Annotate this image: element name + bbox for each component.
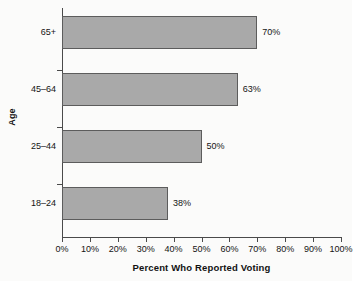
x-axis-tick xyxy=(229,237,230,242)
x-axis-title: Percent Who Reported Voting xyxy=(62,262,341,273)
y-tick-label-25-44: 25–44 xyxy=(4,142,56,151)
x-axis-tick xyxy=(146,237,147,242)
bar-value-18-24: 38% xyxy=(173,199,191,208)
bar-65plus[interactable] xyxy=(62,16,257,49)
x-axis-tick xyxy=(285,237,286,242)
x-axis-tick xyxy=(257,237,258,242)
bar-value-25-44: 50% xyxy=(207,142,225,151)
x-axis-tick xyxy=(118,237,119,242)
bar-25-44[interactable] xyxy=(62,130,202,163)
y-axis-tick xyxy=(57,70,62,71)
y-axis-tick xyxy=(57,184,62,185)
bar-45-64[interactable] xyxy=(62,73,238,106)
y-tick-label-18-24: 18–24 xyxy=(4,199,56,208)
x-axis-tick xyxy=(90,237,91,242)
y-axis-title: Age xyxy=(7,87,17,147)
x-axis-tick xyxy=(62,237,63,242)
bar-18-24[interactable] xyxy=(62,187,168,220)
y-tick-label-45-64: 45–64 xyxy=(4,85,56,94)
y-axis-tick xyxy=(57,127,62,128)
x-axis-tick xyxy=(313,237,314,242)
y-tick-label-65plus: 65+ xyxy=(4,28,56,37)
x-axis-tick xyxy=(202,237,203,242)
x-axis-tick xyxy=(341,237,342,242)
x-axis-tick xyxy=(174,237,175,242)
bar-value-65plus: 70% xyxy=(262,28,280,37)
x-axis-tick-label: 100% xyxy=(324,245,357,254)
bar-value-45-64: 63% xyxy=(243,85,261,94)
